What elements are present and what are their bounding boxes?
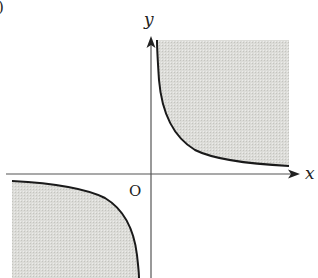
shaded-region-quadrant-3 — [12, 181, 139, 278]
hyperbola-diagram: ) y x O — [0, 0, 318, 278]
y-axis-label: y — [143, 9, 154, 29]
corner-mark: ) — [0, 0, 4, 16]
origin-label: O — [129, 182, 141, 200]
shaded-region-quadrant-1 — [157, 40, 289, 166]
x-axis-label: x — [305, 163, 315, 183]
